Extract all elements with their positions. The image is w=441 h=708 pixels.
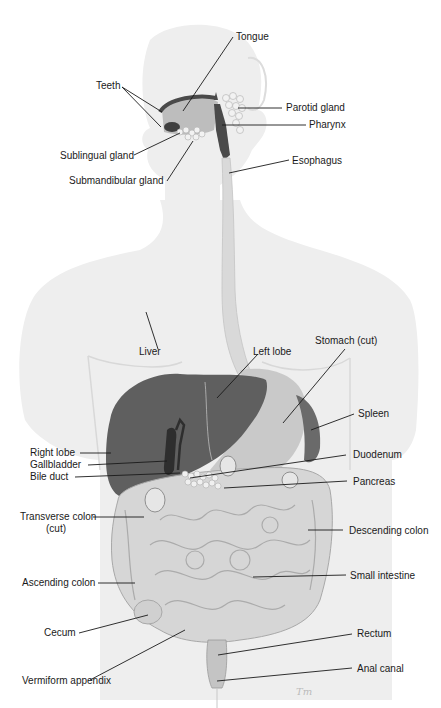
- label-right-lobe: Right lobe: [30, 447, 75, 459]
- label-teeth: Teeth: [96, 80, 120, 92]
- label-cecum: Cecum: [44, 627, 76, 639]
- rectum-shape: [207, 640, 227, 688]
- label-esophagus: Esophagus: [292, 155, 342, 167]
- label-anal-canal: Anal canal: [357, 663, 404, 675]
- label-sublingual-gland: Sublingual gland: [60, 150, 134, 162]
- label-bile-duct: Bile duct: [30, 471, 68, 483]
- label-pancreas: Pancreas: [353, 476, 395, 488]
- label-duodenum: Duodenum: [353, 449, 402, 461]
- artist-signature: Tm: [296, 686, 312, 697]
- anatomy-illustration: Tm: [0, 0, 441, 708]
- label-transverse-colon-line1: Transverse colon: [20, 511, 92, 523]
- digestive-system-diagram: Tm: [0, 0, 441, 708]
- label-small-intestine: Small intestine: [350, 570, 415, 582]
- label-ascending-colon: Ascending colon: [22, 577, 95, 589]
- label-gallbladder: Gallbladder: [30, 459, 81, 471]
- label-descending-colon: Descending colon: [349, 525, 429, 537]
- label-rectum: Rectum: [357, 628, 391, 640]
- label-stomach: Stomach (cut): [315, 335, 377, 347]
- label-tongue: Tongue: [236, 31, 269, 43]
- label-vermiform-appendix: Vermiform appendix: [22, 675, 111, 687]
- label-left-lobe: Left lobe: [253, 346, 291, 358]
- label-transverse-colon-line2: (cut): [20, 523, 92, 535]
- label-parotid-gland: Parotid gland: [286, 102, 345, 114]
- label-submandibular-gland: Submandibular gland: [69, 175, 164, 187]
- label-transverse-colon: Transverse colon (cut): [20, 511, 92, 535]
- label-pharynx: Pharynx: [309, 119, 346, 131]
- label-spleen: Spleen: [358, 408, 389, 420]
- label-liver: Liver: [139, 346, 161, 358]
